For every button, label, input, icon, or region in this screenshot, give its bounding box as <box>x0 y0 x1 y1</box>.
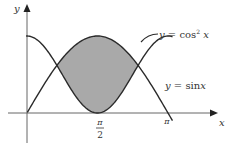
cos-squared-label: y = cos2 x <box>158 28 209 40</box>
cos-squared-leader <box>141 34 158 42</box>
x-axis-arrow-icon <box>210 110 218 117</box>
diagram-canvas: y x y = cos2 x y = sinx π 2 π <box>0 0 229 148</box>
y-axis-label: y <box>13 3 20 14</box>
tick-pi-over-2-denominator: 2 <box>97 130 103 140</box>
shaded-region <box>57 36 138 113</box>
y-axis-arrow-icon <box>24 4 31 12</box>
tick-pi-over-2-numerator: π <box>96 118 103 127</box>
tick-pi: π <box>163 117 170 126</box>
sine-label: y = sinx <box>164 80 206 91</box>
x-axis-label: x <box>219 117 225 128</box>
